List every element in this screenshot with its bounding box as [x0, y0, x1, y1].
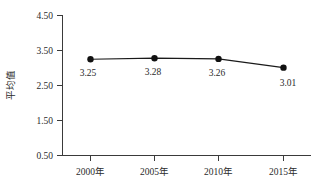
line-chart-canvas: 4.50 3.50 2.50 1.50 0.50 2000年 2005年 201… [0, 0, 320, 189]
data-point-label-1: 3.28 [145, 67, 162, 77]
y-tick-label-0: 0.50 [36, 151, 53, 161]
y-tick-label-3: 3.50 [36, 46, 53, 56]
chart-figure: 4.50 3.50 2.50 1.50 0.50 2000年 2005年 201… [0, 0, 320, 189]
series-line-average [91, 58, 284, 67]
x-tick-label-0: 2000年 [76, 166, 105, 177]
y-axis-ticks [57, 16, 63, 156]
x-tick-label-2: 2010年 [204, 166, 233, 177]
data-point-marker [151, 55, 157, 61]
data-point-label-0: 3.25 [80, 68, 97, 78]
y-tick-label-1: 1.50 [36, 116, 53, 126]
x-axis-ticks [91, 156, 284, 162]
data-point-marker [87, 56, 93, 62]
data-point-label-2: 3.26 [209, 68, 226, 78]
x-tick-label-1: 2005年 [140, 166, 169, 177]
data-point-label-3: 3.01 [280, 78, 297, 88]
y-axis-title: 平均值 [5, 70, 16, 100]
data-point-marker [215, 56, 221, 62]
x-tick-label-3: 2015年 [269, 166, 298, 177]
data-point-marker [280, 64, 286, 70]
y-tick-label-4: 4.50 [36, 11, 53, 21]
y-tick-label-2: 2.50 [36, 81, 53, 91]
